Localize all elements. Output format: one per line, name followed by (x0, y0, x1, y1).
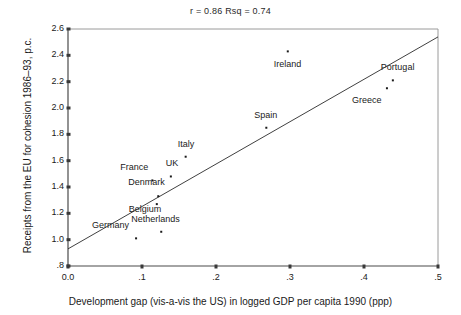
regression-line (68, 37, 438, 249)
data-point (170, 175, 172, 177)
data-point (135, 237, 137, 239)
data-point (151, 179, 153, 181)
scatter-plot-figure: r = 0.86 Rsq = 0.74 Receipts from the EU… (0, 0, 461, 315)
data-point (265, 127, 267, 129)
data-point (386, 87, 388, 89)
data-point (185, 156, 187, 158)
data-point (392, 79, 394, 81)
plot-canvas (0, 0, 461, 315)
data-point (160, 231, 162, 233)
data-point (157, 195, 159, 197)
data-point (156, 203, 158, 205)
data-points (135, 50, 394, 239)
axes (67, 28, 440, 269)
data-point (287, 50, 289, 52)
